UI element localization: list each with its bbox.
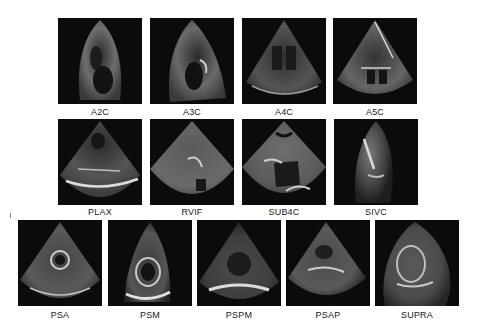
view-label: A4C: [242, 107, 326, 117]
tile-a4c: A4C: [242, 18, 326, 120]
ultrasound-image-rvif: [150, 119, 234, 205]
view-label: PSM: [108, 310, 192, 320]
tile-supra: SUPRA: [375, 220, 459, 324]
view-label: A5C: [333, 107, 417, 117]
tile-rvif: RVIF: [150, 119, 234, 219]
ultrasound-image-psap: [286, 220, 370, 306]
view-label: A2C: [58, 107, 142, 117]
view-label: PSA: [18, 310, 102, 320]
view-label: PSAP: [286, 310, 370, 320]
ultrasound-image-pspm: [197, 220, 281, 306]
ultrasound-image-psm: [108, 220, 192, 306]
tile-plax: PLAX: [58, 119, 142, 219]
tile-psap: PSAP: [286, 220, 370, 324]
view-label: SIVC: [334, 207, 418, 217]
tile-psa: PSA: [18, 220, 102, 324]
ultrasound-image-psa: [18, 220, 102, 306]
tile-a5c: A5C: [333, 18, 417, 120]
ultrasound-image-a3c: [150, 18, 234, 104]
ultrasound-image-sivc: [334, 119, 418, 205]
view-label: SUPRA: [375, 310, 459, 320]
ultrasound-image-supra: [375, 220, 459, 306]
tile-pspm: PSPM: [197, 220, 281, 324]
ultrasound-image-a4c: [242, 18, 326, 104]
view-label: RVIF: [150, 207, 234, 217]
ultrasound-image-plax: [58, 119, 142, 205]
view-label: A3C: [150, 107, 234, 117]
ultrasound-image-sub4c: [242, 119, 326, 205]
stray-mark: [10, 213, 11, 218]
view-label: PSPM: [197, 310, 281, 320]
ultrasound-image-a2c: [58, 18, 142, 104]
tile-psm: PSM: [108, 220, 192, 324]
ultrasound-image-a5c: [333, 18, 417, 104]
tile-sivc: SIVC: [334, 119, 418, 219]
view-label: SUB4C: [242, 207, 326, 217]
tile-a3c: A3C: [150, 18, 234, 120]
tile-sub4c: SUB4C: [242, 119, 326, 219]
tile-a2c: A2C: [58, 18, 142, 120]
view-label: PLAX: [58, 207, 142, 217]
